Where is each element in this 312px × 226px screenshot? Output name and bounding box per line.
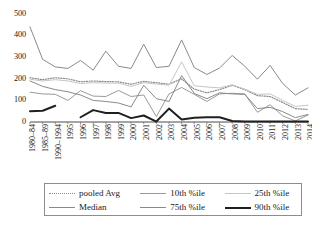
x-axis-tick-label: 2009 [241,124,249,140]
x-axis-tick-label: 2010 [254,124,262,140]
x-axis-tick-label: 1999 [115,124,123,140]
x-axis-tick-label: 1996 [77,124,85,140]
legend-item-75th-pctile[interactable]: 75th %ile [139,200,223,214]
x-axis-tick-label: 1980–84 [26,124,34,152]
x-axis-tick-label: 1998 [102,124,110,140]
x-axis-tick-label: 2000 [127,124,135,140]
legend-swatch-icon [224,202,252,212]
legend-row: Median 75th %ile 90th %ile [48,200,298,214]
legend-item-25th-pctile[interactable]: 25th %ile [224,186,298,200]
legend-swatch-icon [48,188,76,198]
x-axis-tick-label: 1995 [64,124,72,140]
y-axis-tick-label: 100 [0,96,26,104]
x-axis-tick-label: 2008 [229,124,237,140]
legend-swatch-icon [48,202,76,212]
x-axis-tick-labels: 1980–841985–891990–199419951996199719981… [0,124,312,178]
x-axis-tick-label: 2005 [191,124,199,140]
x-axis-tick-label: 2004 [178,124,186,140]
x-axis-tick-label: 2003 [165,124,173,140]
legend-item-10th-pctile[interactable]: 10th %ile [139,186,223,200]
y-axis-tick-label: 200 [0,75,26,83]
chart-figure: 0100200300400500 1980–841985–891990–1994… [0,0,312,226]
legend-swatch-icon [139,188,167,198]
legend-item-90th-pctile[interactable]: 90th %ile [224,200,298,214]
x-axis-tick-label: 2002 [153,124,161,140]
y-axis-tick-label: 300 [0,53,26,61]
y-axis-tick-label: 500 [0,10,26,18]
y-axis-tick-label: 400 [0,31,26,39]
legend-item-label: 10th %ile [167,189,205,198]
legend-item-label: 75th %ile [167,203,205,212]
x-axis-tick-label: 2013 [292,124,300,140]
legend-item-label: Median [76,203,107,212]
legend-item-label: 25th %ile [252,189,290,198]
legend-item-pooled-avg[interactable]: pooled Avg [48,186,139,200]
chart-legend: pooled Avg 10th %ile 25th %ile Median 75… [44,183,302,216]
x-axis-tick-label: 2007 [216,124,224,140]
x-axis-tick-label: 2014 [304,124,312,140]
series-line-5 [81,109,308,122]
x-axis-tick-label: 2012 [279,124,287,140]
plot-area [0,0,312,126]
x-axis-tick-label: 1990–1994 [52,124,60,160]
legend-item-label: pooled Avg [76,189,120,198]
chart-canvas [0,0,312,126]
legend-item-median[interactable]: Median [48,200,139,214]
x-axis-tick-label: 2001 [140,124,148,140]
x-axis-tick-label: 1985–89 [39,124,47,152]
x-axis-tick-label: 2006 [203,124,211,140]
x-axis-tick-label: 2011 [266,124,274,140]
legend-swatch-icon [139,202,167,212]
x-axis-tick-label: 1997 [90,124,98,140]
legend-row: pooled Avg 10th %ile 25th %ile [48,186,298,200]
series-line-5 [30,106,55,111]
legend-swatch-icon [224,188,252,198]
legend-item-label: 90th %ile [252,203,290,212]
